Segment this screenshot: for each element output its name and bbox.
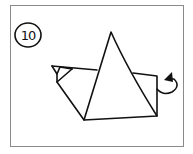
fold-arrow-icon [157,79,177,93]
arrow-head-icon [164,72,173,82]
left-flap [52,66,97,120]
step-number: 10 [15,23,41,47]
center-triangle [84,32,157,120]
